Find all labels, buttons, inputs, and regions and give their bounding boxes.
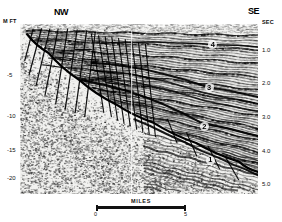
left-tick-3: -20 [7,175,16,181]
scale-bar-start-label: 0 [94,211,97,217]
left-tick-2: -15 [7,147,16,153]
left-tick-0: -5 [7,72,12,78]
right-tick-3: 4.0 [262,148,270,154]
left-tick-1: -10 [7,113,16,119]
scale-bar-line [96,206,186,209]
seismic-wiggle-canvas [20,24,258,194]
scale-bar: MILES 0 5 [0,198,282,222]
direction-label-se: SE [248,7,259,16]
horizon-label-3: 3 [205,83,214,92]
seismic-data-panel: 4321 [20,24,258,194]
scale-bar-caption: MILES [0,198,282,204]
horizon-label-1: 1 [206,156,215,165]
right-tick-0: 1.0 [262,47,270,53]
direction-label-nw: NW [54,8,68,17]
right-tick-1: 2.0 [262,80,270,86]
left-axis-unit-label: M FT [3,19,17,25]
right-axis-unit-label: SEC [262,20,274,26]
right-tick-2: 3.0 [262,114,270,120]
seismic-profile-figure: NW SE M FT SEC -5-10-15-20 1.02.03.04.05… [0,0,282,222]
right-tick-4: 5.0 [262,181,270,187]
scale-bar-end-label: 5 [184,211,187,217]
